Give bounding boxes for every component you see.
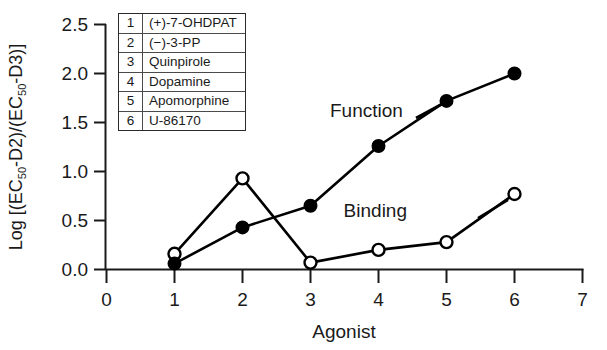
y-axis-title-sub2: 50	[16, 84, 28, 96]
agonist-key-row: 3Quinpirole	[119, 53, 245, 73]
x-tick-label-7: 7	[577, 289, 588, 310]
x-tick-label-5: 5	[441, 289, 452, 310]
agonist-key-row: 6U-86170	[119, 111, 245, 130]
x-tick-marks	[107, 269, 583, 283]
agonist-key-name: Dopamine	[143, 72, 245, 92]
binding-data-point	[237, 172, 249, 184]
y-axis-title-tail: -D3)]	[6, 44, 26, 84]
function-leader-line	[416, 104, 442, 118]
y-axis-title-lead: Log [(EC	[6, 179, 26, 250]
x-tick-label-0: 0	[101, 289, 112, 310]
agonist-key-row: 4Dopamine	[119, 72, 245, 92]
annotation-leaders	[416, 104, 508, 218]
x-axis-title: Agonist	[312, 321, 376, 342]
svg-text:Log [(EC50-D2)/(EC50-D3)]: Log [(EC50-D2)/(EC50-D3)]	[6, 44, 28, 251]
chart-canvas: 2.5 2.0 1.5 1.0 0.5 0.0 0 1 2 3 4 5 6 7 …	[0, 0, 607, 350]
function-data-point	[168, 257, 180, 269]
agonist-key-index: 6	[119, 111, 143, 130]
y-tick-marks	[94, 25, 106, 270]
y-tick-label-1-5: 1.5	[62, 112, 88, 133]
agonist-key-name: (+)-7-OHDPAT	[143, 14, 245, 33]
agonist-key-row: 1(+)-7-OHDPAT	[119, 14, 245, 33]
figure-root: 2.5 2.0 1.5 1.0 0.5 0.0 0 1 2 3 4 5 6 7 …	[0, 0, 607, 350]
y-tick-label-0-0: 0.0	[62, 259, 88, 280]
y-axis-title-sub1: 50	[16, 167, 28, 179]
agonist-key-index: 3	[119, 53, 143, 73]
x-tick-label-6: 6	[509, 289, 520, 310]
function-series-annotation: Function	[330, 100, 403, 121]
agonist-key-index: 4	[119, 72, 143, 92]
binding-leader-line	[478, 200, 508, 218]
y-tick-label-1-0: 1.0	[62, 161, 88, 182]
binding-series-annotation: Binding	[344, 200, 407, 221]
y-axis-title: Log [(EC50-D2)/(EC50-D3)]	[6, 44, 28, 251]
agonist-key-index: 1	[119, 14, 143, 33]
agonist-key-table: 1(+)-7-OHDPAT2(−)-3-PP3Quinpirole4Dopami…	[119, 14, 245, 130]
agonist-key-row: 5Apomorphine	[119, 92, 245, 112]
agonist-key-name: Apomorphine	[143, 92, 245, 112]
function-data-point	[304, 200, 316, 212]
x-tick-label-4: 4	[373, 289, 384, 310]
agonist-key-name: (−)-3-PP	[143, 33, 245, 53]
agonist-key-row: 2(−)-3-PP	[119, 33, 245, 53]
agonist-key-name: Quinpirole	[143, 53, 245, 73]
x-tick-label-3: 3	[305, 289, 316, 310]
binding-data-point	[373, 244, 385, 256]
function-data-point	[508, 67, 520, 79]
y-axis-title-mid: -D2)/(EC	[6, 96, 26, 167]
y-tick-label-2-0: 2.0	[62, 63, 88, 84]
binding-data-point	[305, 257, 317, 269]
y-tick-label-0-5: 0.5	[62, 210, 88, 231]
agonist-key-index: 2	[119, 33, 143, 53]
function-data-point	[372, 140, 384, 152]
binding-data-point	[509, 188, 521, 200]
x-tick-label-2: 2	[237, 289, 248, 310]
agonist-key-name: U-86170	[143, 111, 245, 130]
agonist-key-index: 5	[119, 92, 143, 112]
x-tick-label-1: 1	[169, 289, 180, 310]
agonist-key-legend: 1(+)-7-OHDPAT2(−)-3-PP3Quinpirole4Dopami…	[118, 13, 246, 131]
y-tick-label-2-5: 2.5	[62, 14, 88, 35]
function-data-point	[236, 221, 248, 233]
binding-data-point	[441, 236, 453, 248]
